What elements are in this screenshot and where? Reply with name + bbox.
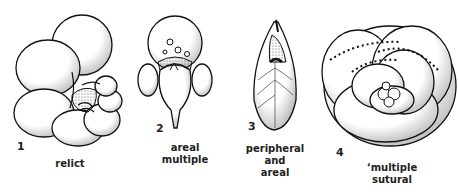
figure-4-caption-line1: ‘multiple — [352, 162, 432, 174]
figure-3-caption-line2: areal — [235, 167, 315, 179]
figure-3-caption-line1: peripheral and — [235, 143, 315, 167]
figure-4-number: 4 — [336, 146, 344, 159]
figure-2-caption: areal multiple — [155, 142, 215, 166]
foraminifera-multiple-sutural-illustration — [320, 0, 458, 150]
figure-2-areal-multiple: 2 areal multiple — [130, 0, 240, 194]
figure-1-number: 1 — [17, 140, 25, 153]
figure-3-number: 3 — [248, 120, 256, 133]
figure-4-caption-line2: sutural — [352, 174, 432, 186]
figure-2-number: 2 — [156, 122, 164, 135]
figure-3-peripheral-and-areal: 3 peripheral and areal — [230, 0, 330, 194]
figure-1-caption: relict — [45, 158, 95, 170]
foraminifera-areal-multiple-illustration — [130, 0, 240, 140]
figure-1-relict: 1 relict — [0, 0, 150, 194]
foraminifera-peripheral-areal-illustration — [230, 0, 330, 140]
figure-4-caption: ‘multiple sutural — [352, 162, 432, 186]
figure-2-caption-line1: areal — [155, 142, 215, 154]
figure-4-multiple-sutural: 4 ‘multiple sutural — [320, 0, 458, 194]
foraminifera-relict-illustration — [0, 0, 150, 150]
figure-2-caption-line2: multiple — [155, 154, 215, 166]
figure-3-caption: peripheral and areal — [235, 143, 315, 179]
